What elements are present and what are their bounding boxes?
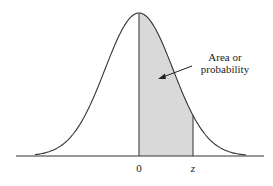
z-label: z [187,162,199,174]
normal-curve-diagram: Area or probability 0 z [0,0,273,186]
shaded-area [139,13,193,156]
annotation-line-1: Area or [190,51,260,63]
annotation-line-2: probability [190,63,260,75]
annotation-label: Area or probability [190,51,260,75]
normal-curve-svg [0,0,273,186]
origin-label: 0 [133,162,145,174]
